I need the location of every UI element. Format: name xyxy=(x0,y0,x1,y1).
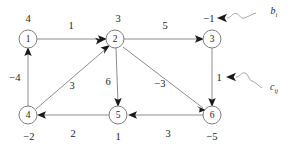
cost-label-edge-1-2: 1 xyxy=(68,21,73,32)
cost-annotation-label: cij xyxy=(270,82,278,95)
node-label-6: 6 xyxy=(210,111,215,121)
supply-value-node-2: 3 xyxy=(115,14,120,25)
cost-label-edge-4-1: −4 xyxy=(9,73,20,84)
node-label-4: 4 xyxy=(26,111,31,121)
node-label-1: 1 xyxy=(26,35,31,45)
supply-value-node-1: 4 xyxy=(25,14,30,25)
cost-label-edge-2-6: −3 xyxy=(154,79,165,90)
supply-pointer xyxy=(217,13,256,22)
cost-pointer xyxy=(226,73,262,88)
node-label-3: 3 xyxy=(210,35,215,45)
edge-1-to-2 xyxy=(37,35,107,44)
node-label-2: 2 xyxy=(113,35,118,45)
graph-canvas xyxy=(0,0,296,153)
cost-label-edge-6-5: 3 xyxy=(165,129,170,140)
supply-annotation-label: bi xyxy=(271,6,278,19)
supply-annotation-subscript: i xyxy=(276,11,278,18)
cost-annotation-subscript: ij xyxy=(274,87,278,94)
cost-label-edge-2-5: 6 xyxy=(105,77,110,88)
edge-2-to-3 xyxy=(124,35,204,43)
node-label-5: 5 xyxy=(116,111,121,121)
cost-label-edge-2-3: 5 xyxy=(162,21,167,32)
supply-value-node-6: −5 xyxy=(206,132,217,143)
supply-value-node-5: 1 xyxy=(115,132,120,143)
network-flow-diagram: 1 2 3 4 5 6 4 3 −1 −2 1 −5 1 5 −4 3 6 −3… xyxy=(0,0,296,153)
edge-2-to-5 xyxy=(114,48,121,107)
edge-6-to-5 xyxy=(128,111,203,118)
cost-label-edge-3-6: 1 xyxy=(216,73,221,84)
edge-4-to-1 xyxy=(24,47,31,106)
cost-label-edge-4-2: 3 xyxy=(69,81,74,92)
edge-4-to-2 xyxy=(36,45,110,109)
cost-label-edge-5-4: 2 xyxy=(70,129,75,140)
supply-value-node-4: −2 xyxy=(23,132,34,143)
edge-3-to-6 xyxy=(208,48,215,107)
supply-value-node-3: −1 xyxy=(203,14,214,25)
edge-5-to-4 xyxy=(37,111,109,118)
